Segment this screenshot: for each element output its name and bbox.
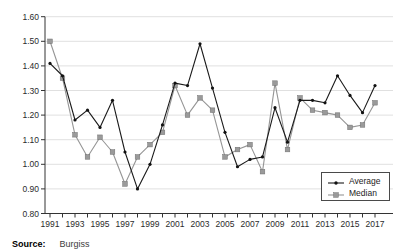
x-tick-label: 2011: [291, 219, 310, 229]
average-line-dot-icon: [328, 177, 344, 185]
x-tick-label: 1999: [141, 219, 160, 229]
median-point-marker: [210, 108, 215, 113]
average-point-marker: [211, 86, 214, 89]
x-tick-label: 2005: [216, 219, 235, 229]
average-point-marker: [261, 155, 264, 158]
median-point-marker: [73, 132, 78, 137]
median-point-marker: [373, 101, 378, 106]
x-tick-label: 1995: [91, 219, 110, 229]
average-point-marker: [173, 82, 176, 85]
average-point-marker: [323, 101, 326, 104]
legend-label-average: Average: [349, 176, 381, 186]
x-tick-label: 1991: [41, 219, 60, 229]
x-tick-label: 1997: [116, 219, 135, 229]
average-point-marker: [236, 165, 239, 168]
average-point-marker: [48, 62, 51, 65]
x-axis-ticks: 1991199319951997199920012003200520072009…: [41, 214, 385, 230]
y-tick-label: 1.40: [22, 61, 39, 71]
median-point-marker: [135, 155, 140, 160]
legend-item-average: Average: [328, 176, 381, 186]
average-point-marker: [361, 111, 364, 114]
average-point-marker: [336, 74, 339, 77]
y-tick-label: 1.30: [22, 86, 39, 96]
x-tick-label: 2007: [241, 219, 260, 229]
average-point-marker: [348, 94, 351, 97]
median-line-square-icon: [328, 189, 344, 197]
average-point-marker: [298, 99, 301, 102]
x-tick-label: 2001: [166, 219, 185, 229]
y-gridlines: [45, 17, 393, 189]
median-point-marker: [185, 113, 190, 118]
chart-legend: Average Median: [321, 172, 390, 201]
x-tick-label: 2003: [191, 219, 210, 229]
median-point-marker: [273, 81, 278, 86]
y-tick-label: 1.60: [22, 12, 39, 22]
average-point-marker: [311, 99, 314, 102]
average-point-marker: [286, 141, 289, 144]
average-point-marker: [186, 84, 189, 87]
median-point-marker: [85, 155, 90, 160]
median-point-marker: [198, 96, 203, 101]
x-tick-label: 2013: [316, 219, 335, 229]
average-point-marker: [223, 131, 226, 134]
median-point-marker: [235, 147, 240, 152]
median-point-marker: [110, 150, 115, 155]
median-point-marker: [360, 123, 365, 128]
chart-canvas: 0.800.901.001.101.201.301.401.501.601991…: [0, 0, 408, 252]
y-tick-label: 0.80: [22, 209, 39, 219]
median-point-marker: [285, 147, 290, 152]
y-axis-ticks: 0.800.901.001.101.201.301.401.501.60: [22, 12, 45, 219]
average-point-marker: [198, 42, 201, 45]
average-point-marker: [86, 109, 89, 112]
source-label: Source:: [12, 239, 46, 249]
median-point-marker: [123, 182, 128, 187]
median-point-marker: [148, 142, 153, 147]
median-point-marker: [260, 169, 265, 174]
median-point-marker: [335, 113, 340, 118]
source-value: Burgiss: [60, 239, 90, 249]
average-point-marker: [248, 158, 251, 161]
y-tick-label: 1.50: [22, 36, 39, 46]
pme-line-chart-figure: 0.800.901.001.101.201.301.401.501.601991…: [0, 0, 408, 252]
x-tick-label: 2015: [341, 219, 360, 229]
median-point-marker: [223, 155, 228, 160]
y-tick-label: 0.90: [22, 184, 39, 194]
average-point-marker: [61, 74, 64, 77]
x-tick-label: 2017: [366, 219, 385, 229]
legend-label-median: Median: [349, 188, 377, 198]
y-tick-label: 1.00: [22, 159, 39, 169]
average-point-marker: [98, 126, 101, 129]
x-tick-label: 2009: [266, 219, 285, 229]
y-tick-label: 1.10: [22, 135, 39, 145]
median-point-marker: [48, 39, 53, 44]
median-point-marker: [323, 110, 328, 115]
source-note: Source:Burgiss: [12, 239, 90, 249]
average-point-marker: [373, 84, 376, 87]
average-point-marker: [148, 163, 151, 166]
average-point-marker: [111, 99, 114, 102]
median-point-marker: [248, 142, 253, 147]
y-tick-label: 1.20: [22, 110, 39, 120]
average-point-marker: [136, 187, 139, 190]
legend-item-median: Median: [328, 188, 381, 198]
average-point-marker: [161, 123, 164, 126]
median-point-marker: [98, 135, 103, 140]
average-point-marker: [273, 106, 276, 109]
average-point-marker: [73, 118, 76, 121]
x-tick-label: 1993: [66, 219, 85, 229]
median-point-marker: [310, 108, 315, 113]
median-point-marker: [348, 125, 353, 130]
average-point-marker: [123, 150, 126, 153]
series-average: [48, 42, 376, 190]
